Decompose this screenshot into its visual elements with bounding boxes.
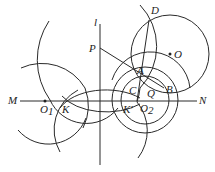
label-o1: O1 [40, 103, 53, 117]
label-d: D [150, 4, 159, 16]
circle-o2-outer [112, 67, 178, 133]
label-p: P [88, 42, 96, 54]
label-c: C [129, 84, 137, 96]
label-a: A [136, 64, 144, 76]
label-l: l [94, 16, 97, 28]
geometry-diagram: l P D O A C Q B M N O1 K K′ O2 [0, 0, 215, 172]
label-k: K [61, 103, 70, 115]
label-b: B [166, 83, 173, 95]
label-k-prime: K′ [122, 103, 133, 115]
arc-o1 [21, 63, 88, 128]
label-n: N [198, 94, 207, 106]
label-o2: O2 [140, 102, 154, 116]
label-m: M [7, 94, 18, 106]
point-o [169, 53, 172, 56]
label-q: Q [147, 87, 155, 99]
label-o: O [174, 48, 182, 60]
